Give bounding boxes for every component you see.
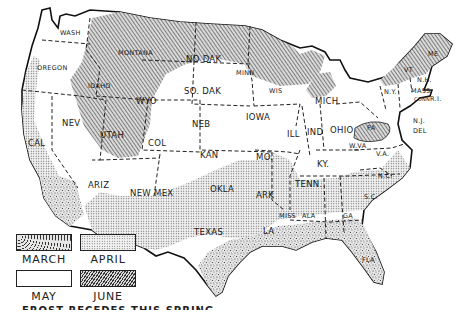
label-wva: W.VA [349, 142, 367, 150]
label-ga: GA [343, 212, 353, 220]
legend-label-may: MAY [9, 290, 79, 303]
label-ky: KY. [317, 159, 329, 169]
label-sc: S.C. [364, 193, 378, 201]
legend-swatch-april [80, 234, 136, 251]
label-utah: UTAH [100, 130, 124, 140]
label-okla: OKLA [210, 184, 234, 194]
label-del: DEL [413, 127, 427, 135]
label-nev: NEV [62, 118, 80, 128]
label-wis: WIS [269, 87, 282, 95]
label-nc: N.C. [378, 172, 393, 180]
label-neb: NEB [192, 119, 210, 129]
legend-swatch-march [16, 234, 72, 251]
label-wyo: WYO [136, 96, 157, 106]
label-la: LA [263, 226, 274, 236]
label-mass: MASS [411, 87, 431, 95]
label-sodak: SO. DAK [184, 86, 221, 96]
label-ariz: ARIZ [88, 180, 109, 190]
label-ill: ILL [287, 129, 300, 139]
label-iowa: IOWA [246, 112, 270, 122]
label-ark: ARK [256, 190, 274, 200]
label-montana: MONTANA [118, 49, 153, 57]
label-ind: IND [307, 127, 323, 137]
label-ohio: OHIO [330, 125, 353, 135]
label-oregon: OREGON [37, 64, 68, 72]
label-cal: CAL [28, 138, 45, 148]
label-nh: N.H. [417, 76, 432, 84]
label-conn: CONN [414, 96, 430, 102]
label-nodak: NO DAK [186, 54, 221, 64]
label-wash: WASH [60, 29, 81, 37]
legend-label-march: MARCH [9, 253, 79, 266]
label-miss: MISS [279, 212, 296, 220]
label-col: COL [148, 138, 166, 148]
label-tenn: TENN. [294, 179, 322, 189]
legend-label-april: APRIL [73, 253, 143, 266]
legend-label-june: JUNE [73, 290, 143, 303]
label-idaho: IDAHO [88, 82, 111, 90]
us-frost-map: WASH OREGON CAL NEV IDAHO MONTANA WYO UT… [0, 0, 470, 315]
legend-swatch-may [16, 270, 72, 287]
legend-swatch-june [80, 270, 136, 287]
label-va: V.A. [376, 150, 389, 158]
label-vt: VT [404, 66, 413, 74]
label-nj: N.J. [413, 117, 425, 125]
label-newmex: NEW MEX [130, 188, 173, 198]
label-mo: MO. [256, 152, 273, 162]
label-minn: MINN [236, 69, 254, 77]
label-ala: ALA [302, 212, 316, 220]
label-pa: PA [367, 124, 376, 132]
label-kan: KAN [200, 150, 219, 160]
label-me: ME [428, 50, 438, 58]
label-ny: N.Y. [384, 88, 397, 96]
label-fla: FLA [362, 256, 375, 264]
label-texas: TEXAS [193, 227, 223, 237]
label-mich: MICH [315, 96, 338, 106]
label-ri: R.I. [430, 95, 442, 103]
